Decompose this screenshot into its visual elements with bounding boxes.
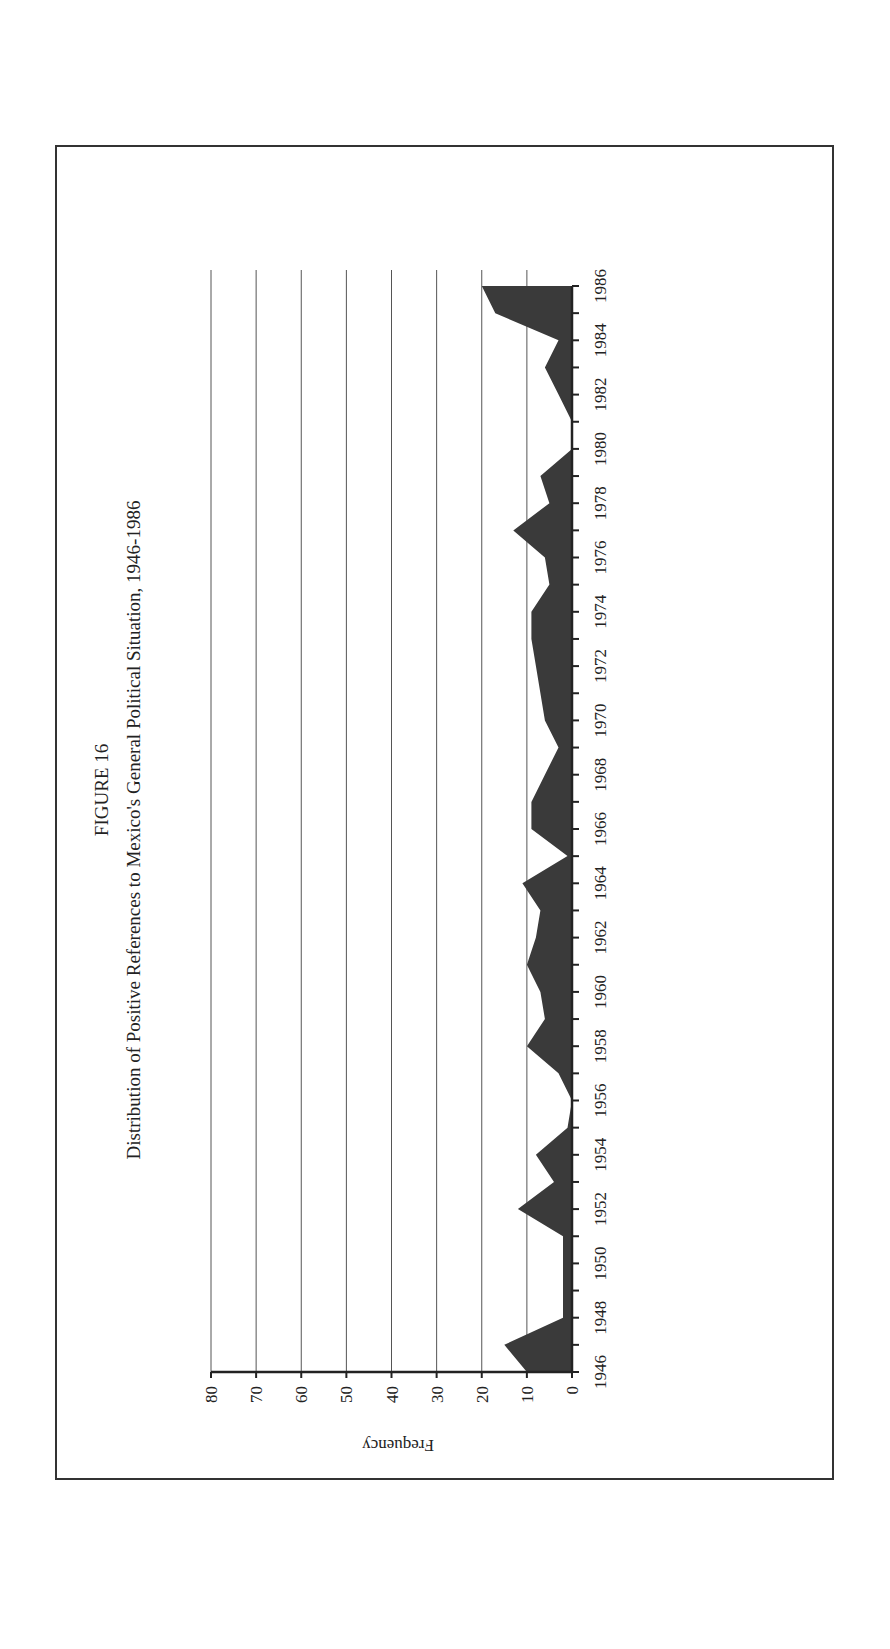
x-tick-label: 1970 <box>591 703 610 737</box>
area-chart: 0102030405060708019461948195019521954195… <box>0 0 890 1649</box>
x-tick-label: 1946 <box>591 1355 610 1389</box>
y-tick-label: 50 <box>337 1386 356 1403</box>
x-tick-label: 1982 <box>591 378 610 412</box>
x-tick-label: 1966 <box>591 812 610 846</box>
x-tick-label: 1952 <box>591 1192 610 1226</box>
y-tick-label: 70 <box>247 1386 266 1403</box>
x-tick-label: 1958 <box>591 1029 610 1063</box>
axes <box>211 286 579 1378</box>
y-tick-label: 10 <box>518 1386 537 1403</box>
x-tick-label: 1986 <box>591 269 610 303</box>
y-tick-label: 30 <box>428 1386 447 1403</box>
gridlines <box>211 270 527 1372</box>
y-axis-label: Frequency <box>362 1436 434 1455</box>
y-tick-label: 0 <box>563 1386 582 1395</box>
x-tick-label: 1954 <box>591 1137 610 1172</box>
x-tick-label: 1956 <box>591 1084 610 1118</box>
x-tick-label: 1972 <box>591 649 610 683</box>
y-tick-label: 80 <box>202 1386 221 1403</box>
x-tick-label: 1980 <box>591 432 610 466</box>
figure-number: FIGURE 16 <box>91 744 112 836</box>
x-tick-label: 1948 <box>591 1301 610 1335</box>
y-tick-label: 60 <box>292 1386 311 1403</box>
x-tick-label: 1974 <box>591 594 610 629</box>
x-tick-label: 1964 <box>591 866 610 901</box>
x-tick-label: 1950 <box>591 1246 610 1280</box>
x-tick-label: 1960 <box>591 975 610 1009</box>
chart-title: Distribution of Positive References to M… <box>123 501 144 1160</box>
x-tick-label: 1984 <box>591 323 610 358</box>
x-tick-label: 1962 <box>591 921 610 955</box>
y-tick-label: 40 <box>383 1386 402 1403</box>
x-tick-label: 1978 <box>591 486 610 520</box>
y-tick-label: 20 <box>473 1386 492 1403</box>
x-tick-label: 1968 <box>591 758 610 792</box>
x-tick-label: 1976 <box>591 541 610 575</box>
